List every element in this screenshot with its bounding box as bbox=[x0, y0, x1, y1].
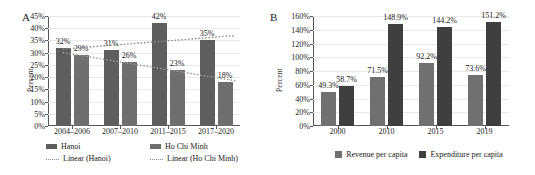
panel-b-y-tick-labels: 0%20%40%60%80%100%120%140%160% bbox=[267, 16, 310, 126]
y-axis-tick bbox=[310, 85, 313, 86]
bar-revenue-per-capita-2019 bbox=[468, 75, 483, 126]
y-tick-label: 100% bbox=[291, 53, 310, 62]
chart-panel-a: A Percent 0%5%10%15%20%25%30%35%40%45% 3… bbox=[0, 0, 267, 175]
bar-expenditure-per-capita-2019 bbox=[486, 22, 501, 126]
x-tick-label: 2019 bbox=[477, 127, 493, 136]
x-tick-label: 2010 bbox=[379, 127, 395, 136]
legend-swatch-expenditure bbox=[419, 151, 426, 158]
gridline bbox=[313, 30, 509, 31]
bar-expenditure-per-capita-2015 bbox=[437, 27, 452, 126]
x-tick-label: 2017–2020 bbox=[198, 127, 234, 136]
x-tick-label: 2000 bbox=[330, 127, 346, 136]
x-tick-label: 2015 bbox=[428, 127, 444, 136]
bar-value-label: 144.2% bbox=[432, 16, 457, 25]
gridline bbox=[313, 16, 509, 17]
legend-item-linear-ho-chi-minh: Linear (Ho Chi Minh) bbox=[150, 154, 254, 163]
y-tick-label: 30% bbox=[30, 48, 45, 57]
panel-a-legend: Hanoi Ho Chi Minh Linear (Hanoi) Linear … bbox=[46, 142, 261, 166]
y-tick-label: 5% bbox=[34, 109, 45, 118]
y-tick-label: 160% bbox=[291, 12, 310, 21]
legend-label-ho-chi-minh: Ho Chi Minh bbox=[165, 142, 208, 151]
y-tick-label: 45% bbox=[30, 12, 45, 21]
y-tick-label: 0% bbox=[299, 122, 310, 131]
x-tick-label: 2007–2010 bbox=[102, 127, 138, 136]
legend-line-linear-hanoi bbox=[46, 159, 59, 160]
legend-item-expenditure: Expenditure per capita bbox=[419, 150, 502, 159]
y-tick-label: 40% bbox=[30, 24, 45, 33]
legend-label-hanoi: Hanoi bbox=[61, 142, 81, 151]
legend-label-expenditure: Expenditure per capita bbox=[430, 150, 502, 159]
legend-item-linear-hanoi: Linear (Hanoi) bbox=[46, 154, 150, 163]
bar-value-label: 58.7% bbox=[336, 75, 357, 84]
legend-label-linear-hanoi: Linear (Hanoi) bbox=[63, 154, 111, 163]
figure-container: A Percent 0%5%10%15%20%25%30%35%40%45% 3… bbox=[0, 0, 535, 175]
y-axis-tick bbox=[310, 71, 313, 72]
y-axis-tick bbox=[310, 16, 313, 17]
panel-b-x-tick-labels: 2000201020152019 bbox=[313, 127, 509, 141]
x-tick-label: 2004–2006 bbox=[54, 127, 90, 136]
panel-a-plot-area: 32%29%31%26%42%23%35%18% bbox=[48, 16, 240, 126]
panel-b-legend: Revenue per capita Expenditure per capit… bbox=[303, 150, 535, 159]
panel-a-y-tick-labels: 0%5%10%15%20%25%30%35%40%45% bbox=[0, 16, 45, 126]
y-tick-label: 40% bbox=[295, 94, 310, 103]
legend-item-ho-chi-minh: Ho Chi Minh bbox=[150, 142, 254, 151]
y-axis-tick bbox=[310, 44, 313, 45]
y-tick-label: 35% bbox=[30, 36, 45, 45]
legend-item-revenue: Revenue per capita bbox=[335, 150, 407, 159]
bar-value-label: 148.9% bbox=[383, 13, 408, 22]
legend-item-hanoi: Hanoi bbox=[46, 142, 150, 151]
bar-expenditure-per-capita-2000 bbox=[339, 86, 354, 126]
bar-revenue-per-capita-2010 bbox=[370, 77, 385, 126]
legend-label-linear-ho-chi-minh: Linear (Ho Chi Minh) bbox=[167, 154, 238, 163]
bar-value-label: 71.5% bbox=[367, 66, 388, 75]
gridline bbox=[313, 57, 509, 58]
y-tick-label: 20% bbox=[30, 73, 45, 82]
y-axis-tick bbox=[310, 30, 313, 31]
bar-expenditure-per-capita-2010 bbox=[388, 24, 403, 126]
trendline-layer bbox=[48, 16, 240, 126]
y-tick-label: 20% bbox=[295, 108, 310, 117]
trendline-linear-ho-chi-minh- bbox=[63, 53, 235, 81]
y-tick-label: 140% bbox=[291, 25, 310, 34]
y-tick-label: 10% bbox=[30, 97, 45, 106]
chart-panel-b: B Percent 0%20%40%60%80%100%120%140%160%… bbox=[267, 0, 535, 175]
y-tick-label: 80% bbox=[295, 67, 310, 76]
y-tick-label: 25% bbox=[30, 60, 45, 69]
bar-value-label: 151.2% bbox=[481, 11, 506, 20]
panel-b-plot-area: 49.3%58.7%71.5%148.9%92.2%144.2%73.6%151… bbox=[313, 16, 509, 126]
bar-value-label: 92.2% bbox=[416, 52, 437, 61]
y-axis-tick bbox=[310, 112, 313, 113]
y-axis-tick bbox=[310, 99, 313, 100]
legend-swatch-revenue bbox=[335, 151, 342, 158]
y-tick-label: 60% bbox=[295, 80, 310, 89]
gridline bbox=[313, 44, 509, 45]
trendline-linear-hanoi- bbox=[63, 36, 235, 49]
x-tick-label: 2011–2015 bbox=[150, 127, 186, 136]
y-tick-label: 120% bbox=[291, 39, 310, 48]
legend-line-linear-ho-chi-minh bbox=[150, 159, 163, 160]
bar-revenue-per-capita-2000 bbox=[321, 92, 336, 126]
legend-swatch-ho-chi-minh bbox=[150, 144, 161, 149]
bar-revenue-per-capita-2015 bbox=[419, 63, 434, 126]
y-tick-label: 15% bbox=[30, 85, 45, 94]
y-axis-tick bbox=[310, 57, 313, 58]
panel-a-x-tick-labels: 2004–20062007–20102011–20152017–2020 bbox=[48, 127, 240, 141]
y-tick-label: 0% bbox=[34, 122, 45, 131]
bar-value-label: 73.6% bbox=[465, 64, 486, 73]
legend-label-revenue: Revenue per capita bbox=[346, 150, 407, 159]
legend-swatch-hanoi bbox=[46, 144, 57, 149]
